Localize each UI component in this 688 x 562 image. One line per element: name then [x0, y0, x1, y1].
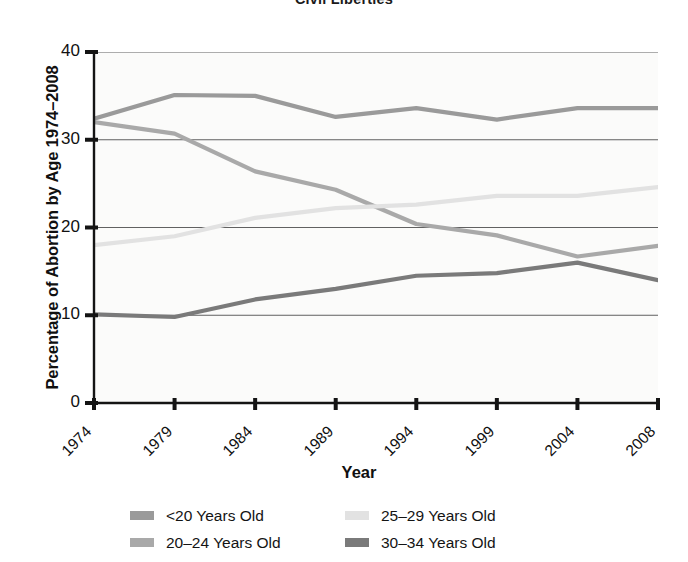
x-tick-label: 1984 [219, 423, 256, 460]
x-tick-label: 1989 [300, 423, 337, 460]
y-tick-label: 0 [34, 392, 80, 412]
legend-swatch-icon [130, 511, 154, 520]
plot-area [94, 52, 658, 403]
x-tick-label: 1974 [58, 423, 95, 460]
y-tick-label: 40 [34, 41, 80, 61]
series-line-0 [94, 95, 658, 120]
y-tick-label: 10 [34, 304, 80, 324]
legend-swatch-icon [345, 511, 369, 520]
legend-item: 20–24 Years Old [130, 534, 345, 552]
legend-label: <20 Years Old [166, 507, 264, 525]
series-line-3 [94, 263, 658, 317]
series-line-2 [94, 187, 658, 245]
x-axis-title: Year [0, 463, 688, 482]
legend-item: 25–29 Years Old [345, 507, 560, 525]
legend-swatch-icon [345, 538, 369, 547]
legend-item: <20 Years Old [130, 507, 345, 525]
chart-legend: <20 Years Old25–29 Years Old20–24 Years … [130, 502, 560, 556]
plot-lines [94, 52, 658, 403]
abortion-by-age-line-chart: Civil Liberties Percentage of Abortion b… [0, 0, 688, 562]
x-tick-label: 1994 [380, 423, 417, 460]
legend-label: 20–24 Years Old [166, 534, 281, 552]
running-head: Civil Liberties [0, 0, 688, 7]
legend-label: 25–29 Years Old [381, 507, 496, 525]
y-tick-label: 30 [34, 129, 80, 149]
legend-swatch-icon [130, 538, 154, 547]
legend-item: 30–34 Years Old [345, 534, 560, 552]
legend-label: 30–34 Years Old [381, 534, 496, 552]
x-tick-label: 1979 [139, 423, 176, 460]
x-tick-label: 1999 [461, 423, 498, 460]
x-tick-label: 2004 [541, 423, 578, 460]
x-tick-label: 2008 [622, 423, 659, 460]
y-tick-label: 20 [34, 217, 80, 237]
